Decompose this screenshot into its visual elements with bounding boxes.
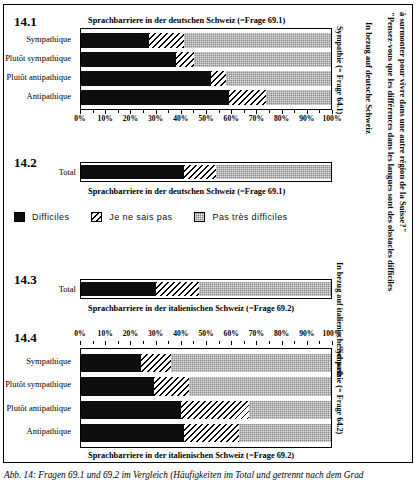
- bar-segment-s2: [141, 354, 171, 372]
- axis-tick-label: 70%: [249, 330, 264, 338]
- x-axis-14-4: [80, 341, 332, 346]
- axis-tick-minor: [219, 110, 220, 113]
- axis-tick-label: 0%: [74, 330, 85, 338]
- legend-swatch-gray-checker: [194, 212, 205, 222]
- category-label: Sympathique: [26, 357, 76, 366]
- category-label: Plutôt sympathique: [5, 54, 76, 63]
- bar-14-3-row-0: [81, 282, 331, 296]
- legend: DifficilesJe ne sais pasPas très diffici…: [14, 210, 309, 224]
- category-label: Plutôt sympathique: [5, 380, 76, 389]
- axis-tick-minor: [219, 341, 220, 344]
- bar-14-1-row-1: [81, 52, 331, 67]
- bar-segment-s3: [239, 424, 332, 442]
- axis-tick-major: [282, 341, 283, 345]
- axis-tick-minor: [93, 110, 94, 113]
- axis-tick-major: [332, 341, 333, 345]
- row-label-14-3: Total: [30, 284, 76, 294]
- axis-tick-major: [105, 341, 106, 345]
- category-labels-14-1: SympathiquePlutôt sympathiquePlutôt anti…: [0, 28, 76, 110]
- axis-tick-minor: [193, 341, 194, 344]
- axis-tick-minor: [269, 110, 270, 113]
- bar-segment-s1: [81, 401, 181, 419]
- bar-segment-s3: [171, 354, 331, 372]
- category-label: Antipathique: [27, 427, 76, 436]
- axis-tick-label: 80%: [274, 330, 289, 338]
- bar-segment-s2: [156, 282, 199, 296]
- category-label: Plutôt antipathique: [7, 73, 76, 82]
- bar-segment-s1: [81, 282, 156, 296]
- legend-label: Difficiles: [32, 212, 69, 222]
- axis-tick-label: 80%: [274, 115, 289, 123]
- figure-question-quote-line1: "Pensez-vous que les différences dans le…: [386, 12, 396, 291]
- bar-segment-s3: [266, 90, 331, 105]
- axis-tick-label: 40%: [173, 115, 188, 123]
- legend-swatch-solid-black: [14, 212, 25, 222]
- bar-segment-s1: [81, 165, 184, 179]
- axis-tick-major: [307, 341, 308, 345]
- bar-segment-s3: [194, 52, 332, 67]
- legend-item: Difficiles: [14, 212, 69, 222]
- bar-segment-s3: [199, 282, 332, 296]
- bar-segment-s3: [184, 33, 332, 48]
- axis-tick-label: 50%: [198, 330, 213, 338]
- bar-segment-s2: [176, 52, 194, 67]
- bar-segment-s2: [149, 33, 184, 48]
- axis-tick-label: 50%: [198, 115, 213, 123]
- axis-tick-major: [181, 341, 182, 345]
- bar-14-2-row-0: [81, 165, 331, 179]
- axis-tick-minor: [168, 341, 169, 344]
- axis-tick-minor: [319, 341, 320, 344]
- x-axis-tick-labels-14-4: 0%10%20%30%40%50%60%70%80%90%100%: [80, 330, 332, 340]
- bar-14-4-row-1: [81, 377, 331, 395]
- axis-tick-label: 0%: [74, 115, 85, 123]
- axis-tick-minor: [118, 110, 119, 113]
- section-number-14-4: 14.4: [14, 330, 37, 346]
- axis-tick-label: 70%: [249, 115, 264, 123]
- bar-segment-s1: [81, 424, 184, 442]
- bar-14-1-row-3: [81, 90, 331, 105]
- axis-tick-minor: [319, 110, 320, 113]
- legend-item: Pas très difficiles: [194, 212, 287, 222]
- axis-tick-minor: [269, 341, 270, 344]
- axis-tick-label: 20%: [123, 330, 138, 338]
- axis-tick-label: 60%: [224, 115, 239, 123]
- axis-tick-major: [80, 341, 81, 345]
- bar-segment-s3: [226, 71, 331, 86]
- axis-tick-label: 90%: [299, 330, 314, 338]
- bar-segment-s2: [184, 424, 239, 442]
- chart-title-14-1: Sprachbarriere in der deutschen Schweiz …: [88, 16, 285, 25]
- axis-tick-label: 40%: [173, 330, 188, 338]
- axis-tick-major: [156, 341, 157, 345]
- bar-segment-s1: [81, 354, 141, 372]
- category-label: Antipathique: [27, 92, 76, 101]
- axis-tick-label: 30%: [148, 330, 163, 338]
- figure-caption: Abb. 14: Fragen 69.1 und 69.2 im Verglei…: [4, 470, 416, 482]
- axis-tick-minor: [143, 110, 144, 113]
- axis-tick-major: [256, 341, 257, 345]
- axis-tick-minor: [143, 341, 144, 344]
- axis-tick-minor: [93, 341, 94, 344]
- legend-item: Je ne sais pas: [91, 212, 172, 222]
- bar-14-1-row-0: [81, 33, 331, 48]
- bar-14-4-row-3: [81, 424, 331, 442]
- axis-tick-label: 100%: [323, 330, 342, 338]
- axis-tick-label: 10%: [98, 330, 113, 338]
- bar-segment-s1: [81, 377, 154, 395]
- chart-title-14-4: Sprachbarriere in der italienischen Schw…: [88, 451, 294, 460]
- axis-tick-major: [206, 341, 207, 345]
- bar-segment-s2: [211, 71, 226, 86]
- axis-tick-label: 20%: [123, 115, 138, 123]
- region-label-german-col: In bezug auf deutsche Schweiz: [364, 22, 374, 134]
- bar-14-4-row-2: [81, 401, 331, 419]
- bar-segment-s1: [81, 90, 229, 105]
- axis-tick-label: 10%: [98, 115, 113, 123]
- chart-title-14-2: Sprachbarriere in der deutschen Schweiz …: [88, 187, 285, 196]
- axis-tick-minor: [118, 341, 119, 344]
- bar-segment-s2: [184, 165, 217, 179]
- bar-14-4-row-0: [81, 354, 331, 372]
- bar-segment-s3: [216, 165, 331, 179]
- category-label: Plutôt antipathique: [7, 404, 76, 413]
- bar-segment-s2: [229, 90, 267, 105]
- axis-tick-minor: [294, 341, 295, 344]
- row-label-14-2: Total: [30, 167, 76, 177]
